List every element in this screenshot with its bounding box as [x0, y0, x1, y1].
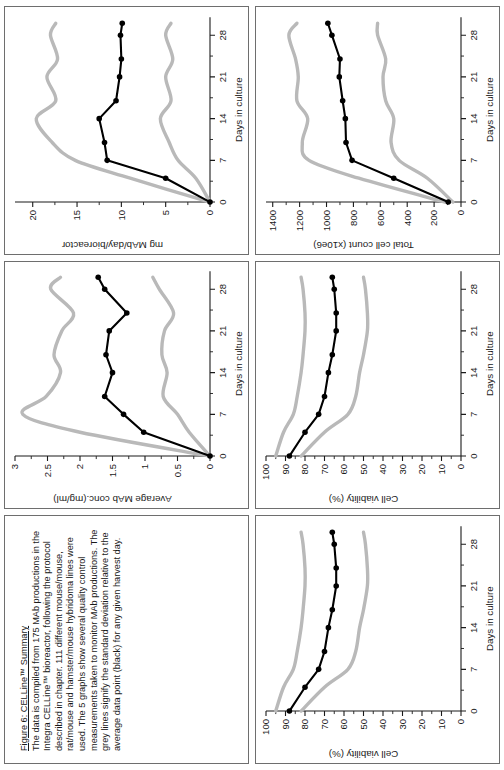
figure-caption-body: The data is compiled from 175 MAb produc… [31, 526, 124, 751]
data-point [95, 275, 101, 281]
chart-svg-mab-conc: 0714212800.511.522.53Days in cultureAver… [5, 262, 248, 509]
plot-area-mab-conc: 0714212800.511.522.53Days in cultureAver… [5, 262, 248, 509]
data-point [337, 56, 343, 62]
data-point [102, 394, 108, 400]
chart-panel-extra: 071421280102030405060708090100Days in cu… [255, 515, 500, 764]
x-tick-label: 7 [217, 412, 228, 417]
data-point [102, 287, 108, 293]
x-axis-label: Days in culture [484, 77, 495, 142]
x-tick-label: 28 [468, 30, 479, 41]
data-point [121, 412, 127, 418]
y-tick-label: 10 [436, 719, 447, 730]
chart-svg-cell-viability: 071421280102030405060708090100Days in cu… [256, 516, 499, 763]
data-point [119, 56, 125, 62]
x-axis-label: Days in culture [484, 332, 495, 397]
data-point [330, 352, 336, 358]
plot-area-total-cell-count: 071421280200400600800100012001400Days in… [256, 7, 499, 254]
x-tick-label: 28 [468, 539, 479, 550]
data-point [287, 454, 293, 460]
sd-band-line [22, 278, 210, 457]
data-point [118, 32, 124, 38]
y-tick-label: 0 [455, 719, 466, 724]
data-point [302, 684, 308, 690]
chart-svg-mab-per-day: 0714212805101520Days in culturemg MAb/da… [5, 7, 248, 254]
data-point [391, 175, 397, 181]
x-tick-label: 14 [468, 368, 479, 379]
data-point [322, 649, 328, 655]
y-tick-label: 200 [428, 210, 439, 226]
data-point [106, 328, 112, 334]
data-point [104, 157, 110, 163]
y-tick-label: 80 [299, 719, 310, 730]
chart-panel-cell-viability: 071421280102030405060708090100Days in cu… [255, 261, 500, 510]
chart-panel-total-cell-count: 071421280200400600800100012001400Days in… [255, 6, 500, 255]
data-point [331, 541, 337, 547]
y-axis-label: mg MAb/day/bioreactor [61, 240, 163, 251]
y-tick-label: 0.5 [172, 464, 183, 477]
y-axis-label: Cell viability (%) [329, 749, 399, 760]
data-point [163, 175, 169, 181]
data-point [103, 352, 109, 358]
data-point [333, 328, 339, 334]
y-tick-label: 50 [358, 719, 369, 730]
figure-caption-panel: Figure 6: CELLine™ Summary The data is c… [4, 515, 249, 764]
y-tick-label: 100 [260, 719, 271, 735]
x-tick-label: 21 [468, 71, 479, 82]
sd-band-line [276, 278, 305, 457]
y-tick-label: 60 [338, 719, 349, 730]
y-tick-label: 90 [280, 464, 291, 475]
mean-line [98, 278, 210, 457]
plot-area-cell-viability: 071421280102030405060708090100Days in cu… [256, 262, 499, 509]
x-tick-label: 21 [468, 326, 479, 337]
y-tick-label: 5 [160, 210, 171, 215]
x-tick-label: 7 [468, 667, 479, 672]
data-point [207, 454, 213, 460]
y-tick-label: 0 [204, 464, 215, 469]
x-tick-label: 14 [217, 368, 228, 379]
data-point [316, 412, 322, 418]
y-tick-label: 40 [377, 719, 388, 730]
data-point [322, 394, 328, 400]
rotated-figure-wrapper: Figure 6: CELLine™ Summary The data is c… [0, 0, 504, 770]
x-tick-label: 0 [468, 454, 479, 459]
x-tick-label: 0 [468, 199, 479, 204]
data-point [329, 32, 335, 38]
data-point [113, 98, 119, 104]
data-point [124, 311, 130, 317]
y-tick-label: 90 [280, 719, 291, 730]
y-tick-label: 10 [116, 210, 127, 221]
data-point [110, 370, 116, 376]
y-tick-label: 0 [455, 210, 466, 215]
y-tick-label: 30 [397, 464, 408, 475]
data-point [330, 529, 336, 535]
sd-band-line [276, 532, 305, 711]
x-tick-label: 7 [468, 157, 479, 162]
x-tick-label: 14 [468, 113, 479, 124]
data-point [333, 565, 339, 571]
y-tick-label: 2.5 [42, 464, 53, 477]
y-tick-label: 1.5 [107, 464, 118, 477]
data-point [349, 157, 355, 163]
chart-svg-total-cell-count: 071421280200400600800100012001400Days in… [256, 7, 499, 254]
panel-grid: Figure 6: CELLine™ Summary The data is c… [0, 0, 504, 770]
data-point [102, 139, 108, 145]
data-point [343, 116, 349, 122]
x-tick-label: 28 [217, 284, 228, 295]
chart-panel-mab-per-day: 0714212805101520Days in culturemg MAb/da… [4, 6, 249, 255]
data-point [330, 607, 336, 613]
data-point [445, 199, 451, 205]
data-point [331, 287, 337, 293]
y-tick-label: 400 [402, 210, 413, 226]
data-point [207, 199, 213, 205]
x-tick-label: 28 [217, 30, 228, 41]
y-axis-label: Cell viability (%) [329, 494, 399, 505]
data-point [333, 311, 339, 317]
y-tick-label: 0 [204, 210, 215, 215]
chart-panel-mab-conc: 0714212800.511.522.53Days in cultureAver… [4, 261, 249, 510]
x-tick-label: 0 [217, 199, 228, 204]
y-tick-label: 70 [319, 464, 330, 475]
x-tick-label: 7 [468, 412, 479, 417]
data-point [119, 20, 125, 26]
y-tick-label: 2 [74, 464, 85, 469]
plot-area-extra: 071421280102030405060708090100Days in cu… [256, 516, 499, 763]
